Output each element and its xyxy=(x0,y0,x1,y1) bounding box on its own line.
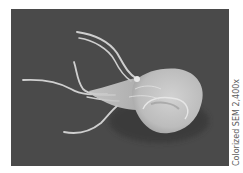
image-caption: Colorized SEM 2,400x xyxy=(233,79,241,166)
flagellum-bottom xyxy=(64,106,117,133)
flagellum-top-2 xyxy=(79,38,131,81)
figure: Colorized SEM 2,400x xyxy=(0,0,243,173)
sem-micrograph xyxy=(11,9,229,166)
flagella-base xyxy=(134,76,140,82)
